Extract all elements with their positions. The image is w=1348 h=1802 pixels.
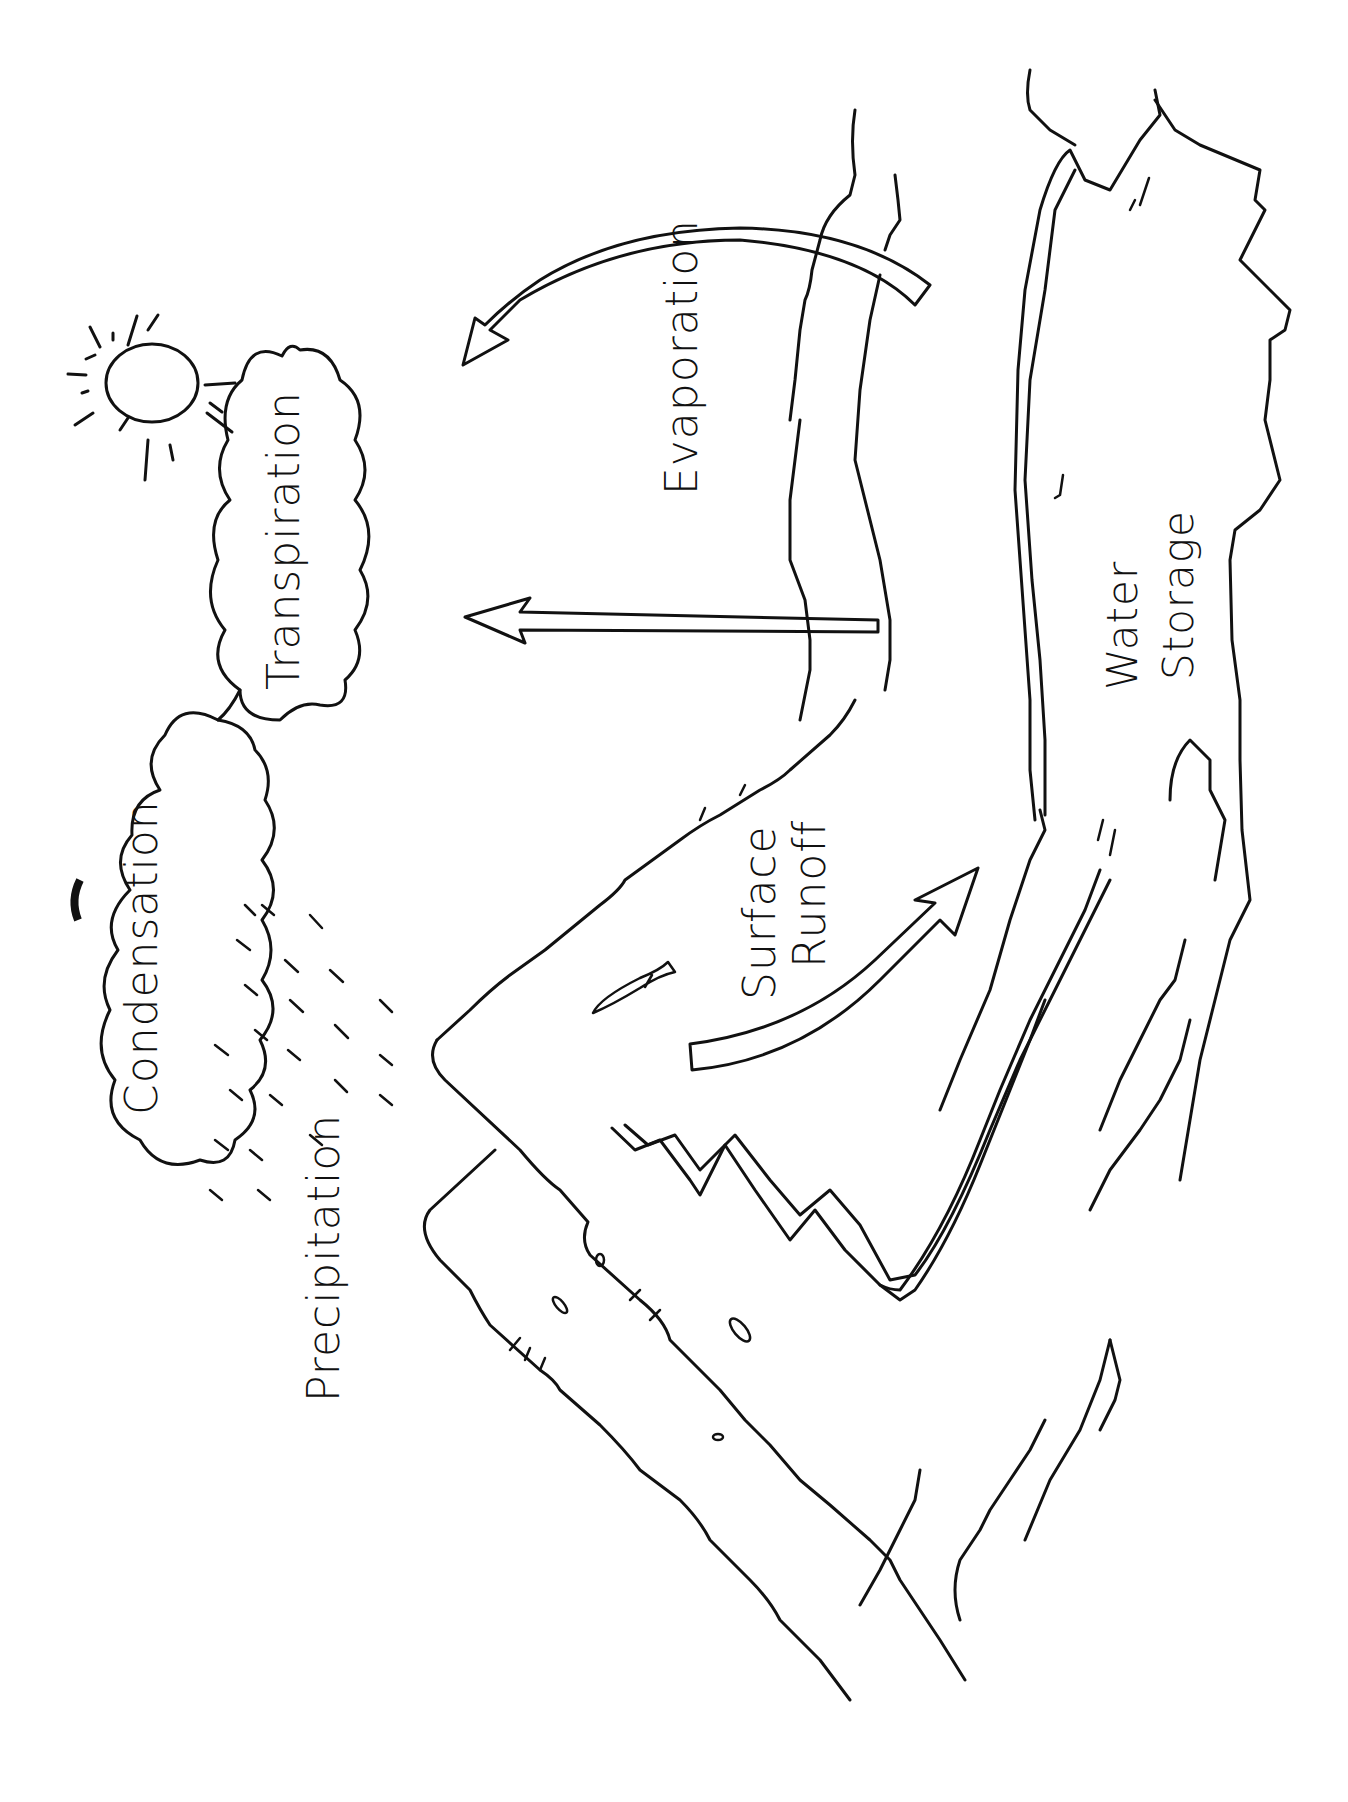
condensation-label: Condensation bbox=[120, 800, 164, 1115]
transpiration-label: Transpiration bbox=[262, 391, 306, 690]
river-bank-right bbox=[940, 810, 1045, 1110]
bottom-right-hill bbox=[1025, 1340, 1110, 1540]
bird bbox=[593, 962, 675, 1013]
ridge-tick bbox=[700, 808, 705, 820]
rock-spot bbox=[713, 1434, 723, 1440]
water-storage-label-line2: Storage bbox=[1158, 510, 1200, 680]
lake-inner bbox=[1025, 170, 1075, 815]
mid-ridge bbox=[790, 420, 810, 720]
rock-spot bbox=[726, 1315, 753, 1344]
water-tick bbox=[1130, 200, 1135, 210]
edge-mark bbox=[74, 880, 80, 920]
bottom-right-hill-2 bbox=[1100, 1340, 1120, 1430]
cloud-join bbox=[218, 690, 240, 720]
water-storage-label-line1: Water bbox=[1102, 561, 1144, 690]
rock-spot bbox=[551, 1295, 570, 1315]
mid-ridge-2 bbox=[855, 275, 890, 690]
top-ridge-3 bbox=[1028, 70, 1076, 145]
water-tick bbox=[1110, 830, 1115, 855]
top-ridge-2 bbox=[885, 175, 900, 250]
surface-runoff-label-line2: Runoff bbox=[788, 820, 832, 968]
mountain bbox=[433, 1040, 966, 1680]
ridge-tick bbox=[740, 785, 745, 795]
sun-icon bbox=[68, 315, 235, 480]
precipitation-label: Precipitation bbox=[302, 1114, 346, 1402]
right-hill-2 bbox=[1100, 940, 1185, 1130]
water-tick bbox=[1098, 820, 1103, 840]
surface-runoff-label-line1: Surface bbox=[738, 825, 782, 1000]
ridge-tick bbox=[540, 1358, 545, 1370]
evaporation-label: Evaporation bbox=[660, 219, 704, 495]
valley-edge-inner bbox=[625, 880, 1110, 1280]
water-tick bbox=[1140, 178, 1149, 205]
lake bbox=[1015, 90, 1160, 820]
hill-lower bbox=[955, 1420, 1045, 1620]
right-hill bbox=[1170, 740, 1225, 880]
water-tick bbox=[1055, 475, 1063, 498]
top-ridge bbox=[790, 110, 855, 420]
transpiration-arrow[interactable] bbox=[465, 598, 878, 643]
valley-edge bbox=[612, 870, 1100, 1290]
